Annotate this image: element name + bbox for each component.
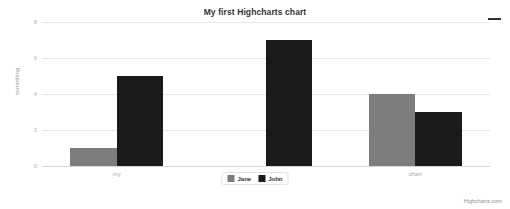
bar-jane-chart[interactable] [369,94,415,166]
chart-legend: JaneJohn [221,172,288,185]
y-axis-tick-label: 8 [34,19,37,25]
bar-jane-my[interactable] [70,148,116,166]
x-axis-line [42,166,490,167]
plot-area: 02468myfirstchart [42,22,490,167]
x-axis-tick-label: chart [409,171,422,177]
chart-title: My first Highcharts chart [0,7,510,17]
y-axis-tick-label: 2 [34,127,37,133]
bar-john-first[interactable] [266,40,312,166]
y-axis-tick-label: 0 [34,163,37,169]
y-axis-tick-label: 4 [34,91,37,97]
context-menu-icon[interactable] [488,9,502,21]
x-axis-tick-label: my [113,171,121,177]
highcharts-container: My first Highcharts chart something 0246… [0,0,510,209]
menu-line-3 [488,18,501,20]
legend-label: Jane [237,176,251,182]
legend-label: John [268,176,282,182]
gridline [42,22,490,23]
bar-john-my[interactable] [117,76,163,166]
bar-john-chart[interactable] [415,112,461,166]
legend-swatch-icon [258,175,265,182]
legend-swatch-icon [227,175,234,182]
y-axis-title: something [14,68,20,95]
y-axis-tick-label: 6 [34,55,37,61]
legend-item-jane[interactable]: Jane [227,175,251,182]
credits-link[interactable]: Highcharts.com [464,198,502,204]
plot-area-wrapper: 02468myfirstchart [42,22,490,167]
legend-item-john[interactable]: John [258,175,282,182]
